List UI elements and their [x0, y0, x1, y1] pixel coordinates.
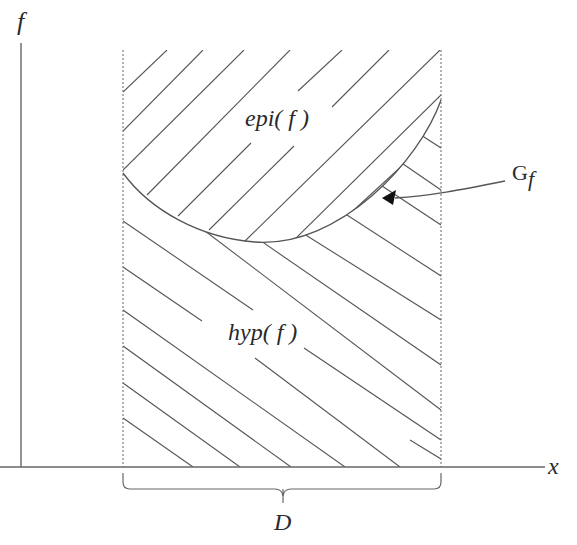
hypograph-hatching: [123, 128, 441, 467]
arrowhead-icon: [382, 190, 396, 205]
y-axis-label: f: [17, 7, 28, 36]
x-axis-label: x: [547, 453, 559, 479]
graph-label: Gf: [512, 160, 537, 191]
epigraph-hypograph-diagram: f x epi( f ) hyp( f ) Gf D: [0, 0, 577, 545]
domain-label: D: [273, 509, 291, 535]
hypograph-label: hyp( f ): [228, 319, 297, 345]
graph-pointer-arrow: [395, 181, 505, 198]
epigraph-label: epi( f ): [245, 105, 309, 131]
domain-brace: [123, 473, 441, 496]
